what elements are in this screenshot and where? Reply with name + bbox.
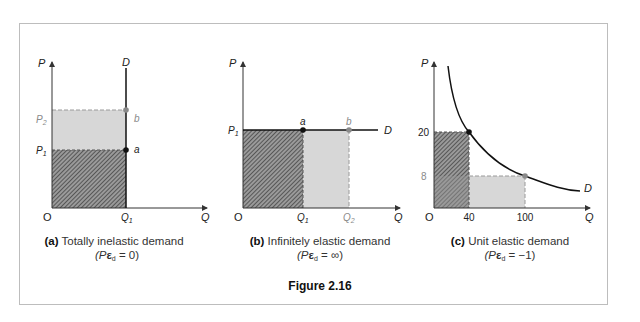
hatched-area-upper <box>434 132 469 176</box>
point-a-label: a <box>300 116 306 127</box>
point-a-label: a <box>134 144 140 155</box>
origin-label: O <box>43 211 52 223</box>
origin-label: O <box>425 211 434 223</box>
y-axis-label: P <box>229 57 237 69</box>
x-tick-q1: Q1 <box>297 212 309 224</box>
caption: (b) Infinitely elastic demand <box>250 235 391 247</box>
curve-label: D <box>384 124 392 136</box>
caption-formula: (Pεd = −1) <box>485 249 536 262</box>
caption: (c) Unit elastic demand <box>451 235 569 247</box>
figure-2-16: P D P2 P1 b a O Q1 Q (a) Totally inelast… <box>0 0 640 322</box>
point-a <box>300 127 306 133</box>
y-axis-label: P <box>38 57 46 69</box>
point-100-8 <box>522 173 528 179</box>
y-tick-20: 20 <box>418 127 430 138</box>
panel-c: P D 20 8 O 40 100 Q (c) Unit elastic dem… <box>418 57 594 262</box>
gray-area <box>469 176 525 208</box>
caption: (a) Totally inelastic demand <box>44 235 183 247</box>
hatched-area <box>243 130 303 208</box>
x-tick-40: 40 <box>463 212 475 223</box>
caption-formula: (Pεd = ∞) <box>297 249 343 262</box>
point-b-label: b <box>134 113 140 124</box>
point-40-20 <box>466 129 472 135</box>
gray-area <box>52 110 126 150</box>
curve-label: D <box>584 182 592 194</box>
panel-a: P D P2 P1 b a O Q1 Q (a) Totally inelast… <box>36 56 210 262</box>
overlap-shade <box>434 176 469 208</box>
x-tick-q1: Q1 <box>121 212 133 224</box>
y-axis-label: P <box>421 57 429 69</box>
y-tick-p1: P1 <box>36 145 47 157</box>
gray-area <box>303 130 349 208</box>
y-tick-p2: P2 <box>36 114 47 126</box>
curve-label: D <box>122 56 130 68</box>
x-tick-100: 100 <box>517 212 534 223</box>
point-b <box>123 107 129 113</box>
x-tick-q2: Q2 <box>343 212 355 224</box>
x-axis-label: Q <box>585 211 594 223</box>
point-b-label: b <box>346 116 352 127</box>
origin-label: O <box>234 211 243 223</box>
point-a <box>123 147 129 153</box>
x-axis-label: Q <box>394 211 403 223</box>
x-axis-label: Q <box>201 211 210 223</box>
point-b <box>346 127 352 133</box>
caption-formula: (Pεd = 0) <box>95 249 139 262</box>
hatched-area <box>52 150 126 208</box>
y-tick-p1: P1 <box>228 125 239 137</box>
y-tick-8: 8 <box>421 171 427 182</box>
figure-title: Figure 2.16 <box>288 279 352 293</box>
panel-b: P D P1 a b O Q1 Q2 Q (b) Infinitely elas… <box>228 57 403 293</box>
